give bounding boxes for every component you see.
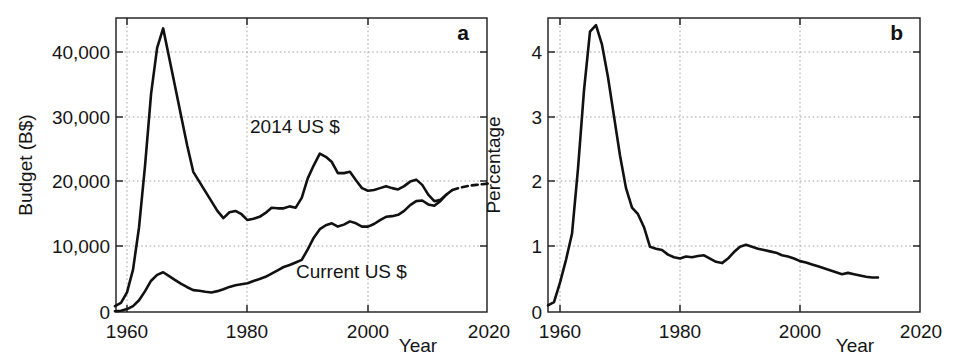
panel-a-x-axis-title: Year <box>399 335 438 356</box>
panel-a-ytick-label-10000: 10,000 <box>52 236 110 257</box>
panel-a-ytick-label-20000: 20,000 <box>52 171 110 192</box>
panel-b-y-axis-title: Percentage <box>483 116 504 213</box>
panel-b-xtick-label-1980: 1980 <box>659 321 701 342</box>
panel-b-ytick-label-2: 2 <box>531 171 542 192</box>
panel-a: 40,000 30,000 20,000 10,000 0 1960 1980 … <box>15 18 510 356</box>
panel-a-letter: a <box>457 21 469 44</box>
panel-b-x-axis-title: Year <box>836 335 875 356</box>
panel-b-plot-frame <box>548 18 920 312</box>
panel-b-ytick-label-0: 0 <box>531 302 542 323</box>
panel-a-xtick-label-1980: 1980 <box>226 321 268 342</box>
panel-b-gridlines <box>548 18 920 312</box>
figure-svg: 40,000 30,000 20,000 10,000 0 1960 1980 … <box>0 0 964 361</box>
panel-b-ytick-label-1: 1 <box>531 236 542 257</box>
panel-a-xtick-label-1960: 1960 <box>106 321 148 342</box>
panel-a-y-axis-title: Budget (B$) <box>15 114 36 215</box>
panel-b-y-ticks <box>548 52 920 246</box>
panel-b-ytick-label-4: 4 <box>531 42 542 63</box>
panel-a-annotation-current-us-dollars: Current US $ <box>296 261 407 282</box>
panel-a-annotation-2014-us-dollars: 2014 US $ <box>250 116 340 137</box>
panel-a-ytick-label-0: 0 <box>99 302 110 323</box>
panel-a-ytick-label-30000: 30,000 <box>52 107 110 128</box>
panel-b-series-percentage <box>548 25 878 305</box>
panel-a-ytick-label-40000: 40,000 <box>52 42 110 63</box>
figure-container: 40,000 30,000 20,000 10,000 0 1960 1980 … <box>0 0 964 361</box>
panel-b-letter: b <box>890 21 903 44</box>
panel-b-xtick-label-2020: 2020 <box>900 321 942 342</box>
panel-a-series-current-usd <box>115 195 446 312</box>
panel-b-xtick-label-1960: 1960 <box>539 321 581 342</box>
panel-b-xtick-label-2000: 2000 <box>779 321 821 342</box>
panel-a-xtick-label-2020: 2020 <box>468 321 510 342</box>
panel-b-ytick-label-3: 3 <box>531 107 542 128</box>
panel-b: 4 3 2 1 0 1960 1980 2000 2020 Percentage… <box>483 18 942 356</box>
panel-a-xtick-label-2000: 2000 <box>347 321 389 342</box>
panel-a-y-ticks <box>116 52 487 246</box>
